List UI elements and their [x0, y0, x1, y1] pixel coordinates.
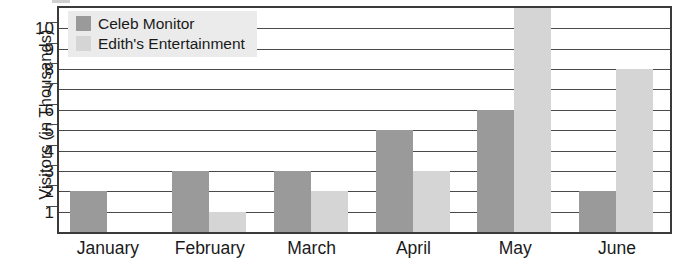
bar	[514, 8, 551, 232]
y-tick-mark-8	[46, 63, 57, 64]
bar	[70, 191, 107, 232]
y-tick-mark-3	[46, 165, 57, 166]
y-axis-tick-labels: 12345678910	[26, 6, 54, 234]
x-axis-label-february: February	[159, 238, 261, 259]
bar-group	[568, 8, 670, 232]
bar-chart: Visitors (in Thousands) 12345678910 Cele…	[0, 0, 678, 278]
legend-swatch-icon-celeb-monitor	[76, 16, 91, 31]
y-tick-mark-10	[46, 22, 57, 23]
x-axis-label-may: May	[464, 238, 566, 259]
bar	[616, 69, 653, 232]
bar	[477, 110, 514, 232]
legend-label-ediths-entertainment: Edith's Entertainment	[98, 35, 245, 52]
x-axis-label-april: April	[363, 238, 465, 259]
bar	[579, 191, 616, 232]
bar-group	[466, 8, 568, 232]
chart-legend: Celeb Monitor Edith's Entertainment	[68, 11, 257, 57]
y-tick-mark-6	[46, 104, 57, 105]
y-tick-mark-9	[46, 43, 57, 44]
bar	[172, 171, 209, 232]
bar	[376, 130, 413, 232]
y-tick-mark-5	[46, 124, 57, 125]
bar	[413, 171, 450, 232]
x-axis-label-june: June	[566, 238, 668, 259]
legend-item-celeb-monitor: Celeb Monitor	[76, 15, 245, 32]
x-axis-category-labels: JanuaryFebruaryMarchAprilMayJune	[57, 238, 672, 270]
legend-swatch-icon-ediths-entertainment	[76, 36, 91, 51]
cropped-title-remnant	[52, 0, 70, 3]
x-axis-label-march: March	[261, 238, 363, 259]
bar	[209, 212, 246, 232]
bar-group	[365, 8, 467, 232]
bar	[311, 191, 348, 232]
bar-group	[263, 8, 365, 232]
bar	[274, 171, 311, 232]
legend-item-ediths-entertainment: Edith's Entertainment	[76, 35, 245, 52]
x-axis-label-january: January	[57, 238, 159, 259]
y-tick-mark-1	[46, 206, 57, 207]
y-tick-mark-2	[46, 185, 57, 186]
legend-label-celeb-monitor: Celeb Monitor	[98, 15, 195, 32]
y-tick-mark-7	[46, 83, 57, 84]
y-tick-mark-4	[46, 145, 57, 146]
